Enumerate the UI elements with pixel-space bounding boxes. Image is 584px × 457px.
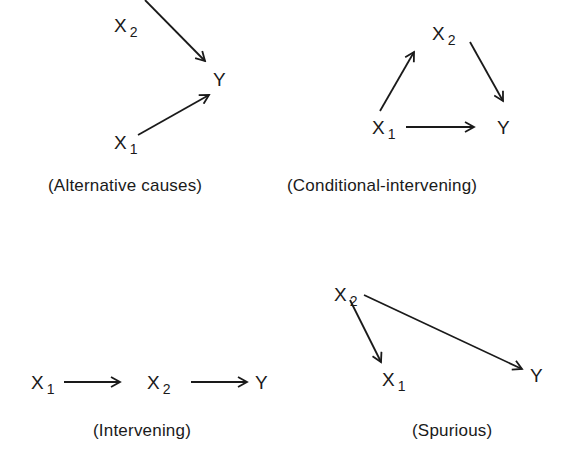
- node-x2: X2: [114, 16, 137, 39]
- node-x2: X2: [147, 373, 170, 396]
- node-x1: X1: [382, 370, 405, 393]
- caption-alternative-causes: (Alternative causes): [48, 176, 202, 196]
- arrow-x2-to-y: [145, 0, 205, 61]
- caption-intervening: (Intervening): [93, 421, 191, 441]
- arrow-x2-to-y: [470, 42, 503, 101]
- caption-conditional-intervening: (Conditional-intervening): [287, 176, 477, 196]
- node-x1: X1: [372, 118, 395, 141]
- node-y: Y: [530, 366, 543, 385]
- node-x2: X2: [334, 285, 357, 308]
- node-y: Y: [213, 70, 226, 89]
- arrow-x1-to-y: [138, 95, 209, 135]
- arrows-layer: [0, 0, 584, 457]
- caption-spurious: (Spurious): [412, 421, 492, 441]
- arrow-x2-to-y: [364, 295, 522, 369]
- node-y: Y: [497, 118, 510, 137]
- node-y: Y: [255, 373, 268, 392]
- node-x1: X1: [114, 133, 137, 156]
- arrow-x1-to-x2: [380, 52, 414, 111]
- node-x1: X1: [31, 373, 54, 396]
- node-x2: X2: [432, 24, 455, 47]
- arrow-x2-to-x1: [350, 300, 381, 362]
